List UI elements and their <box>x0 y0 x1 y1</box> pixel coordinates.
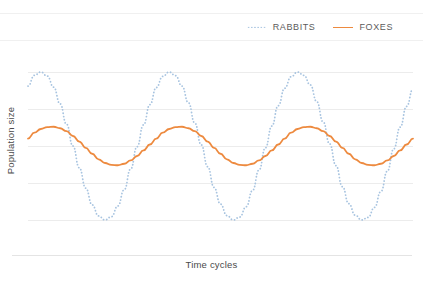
foxes-series-line <box>28 127 413 165</box>
x-axis-title: Time cycles <box>0 259 423 270</box>
solid-line-swatch-icon <box>333 27 353 28</box>
dotted-line-swatch-icon <box>247 26 267 29</box>
legend-label-rabbits: RABBITS <box>273 22 316 32</box>
legend-item-rabbits[interactable]: RABBITS <box>247 22 316 32</box>
predator-prey-chart: RABBITS FOXES Population size Time cycle… <box>0 0 423 283</box>
x-axis-baseline <box>12 255 412 256</box>
chart-legend: RABBITS FOXES <box>247 18 393 36</box>
y-axis-title: Population size <box>5 81 16 201</box>
legend-item-foxes[interactable]: FOXES <box>333 22 393 32</box>
plot-area <box>28 55 413 230</box>
series-lines <box>28 48 413 238</box>
rabbits-series-line <box>28 72 413 220</box>
legend-label-foxes: FOXES <box>359 22 393 32</box>
